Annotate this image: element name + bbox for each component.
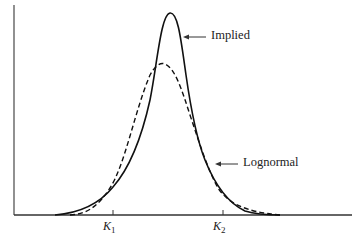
implied-label: Implied: [211, 28, 250, 43]
implied-curve: [55, 13, 280, 215]
k2-label-main: K: [213, 219, 221, 233]
chart-canvas: [0, 0, 363, 246]
lognormal-curve: [70, 63, 280, 215]
k2-label: K2: [213, 219, 226, 235]
k1-label-sub: 1: [111, 225, 116, 235]
k1-label-main: K: [103, 219, 111, 233]
lognormal-arrow-icon: [215, 162, 238, 167]
k1-label: K1: [103, 219, 116, 235]
k2-label-sub: 2: [221, 225, 226, 235]
implied-arrow-icon: [183, 35, 206, 40]
lognormal-label: Lognormal: [243, 155, 299, 170]
